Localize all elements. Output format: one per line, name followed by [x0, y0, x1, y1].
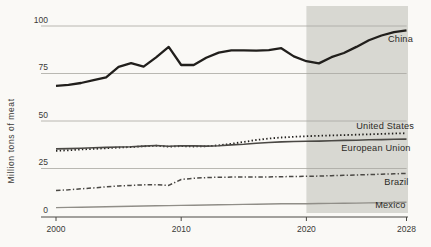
chart-container: 0255075100Million tons of meat2000201020…: [0, 0, 431, 247]
y-tick-label-25: 25: [39, 157, 49, 167]
series-label-european-union: European Union: [341, 143, 410, 153]
series-label-mexico: Mexico: [375, 200, 405, 210]
x-tick-label-2000: 2000: [47, 224, 66, 234]
x-tick-label-2028: 2028: [397, 224, 416, 234]
y-axis-title: Million tons of meat: [6, 98, 16, 183]
x-tick-label-2020: 2020: [297, 224, 316, 234]
y-tick-label-100: 100: [34, 15, 48, 25]
y-tick-label-0: 0: [43, 205, 48, 215]
y-tick-label-75: 75: [39, 62, 49, 72]
meat-production-chart: 0255075100Million tons of meat2000201020…: [0, 0, 431, 247]
series-label-united-states: United States: [356, 121, 414, 131]
y-tick-label-50: 50: [39, 110, 49, 120]
series-label-brazil: Brazil: [384, 177, 408, 187]
series-label-china: China: [388, 34, 414, 44]
x-tick-label-2010: 2010: [172, 224, 191, 234]
